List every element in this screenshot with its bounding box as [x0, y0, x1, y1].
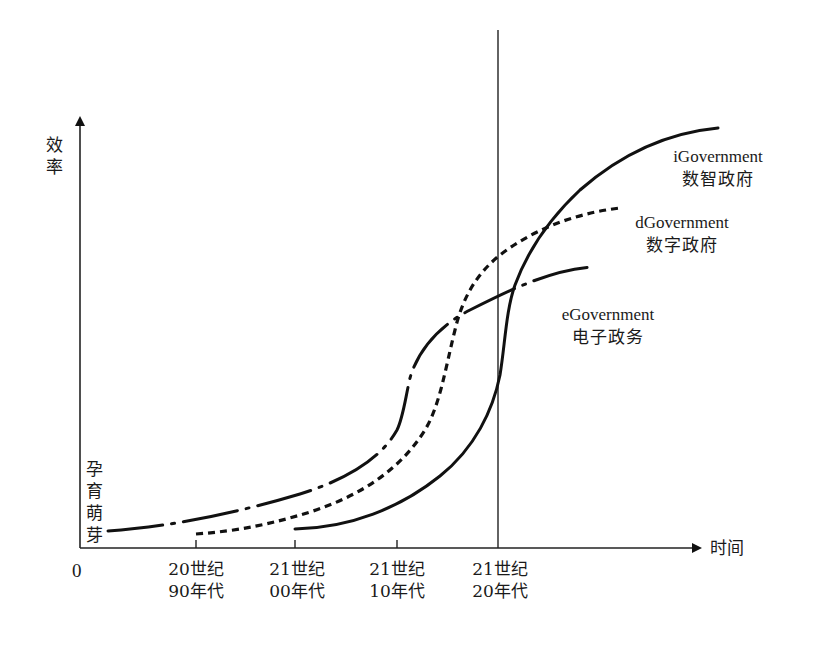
- initial-phase-label: 孕育萌芽: [84, 458, 104, 546]
- y-axis-label: 效率: [44, 134, 64, 178]
- egovernment-curve: [108, 267, 592, 531]
- egovernment-label-en: eGovernment: [562, 304, 655, 326]
- dgovernment-label-en: dGovernment: [635, 212, 728, 234]
- dgovernment-curve: [196, 208, 620, 534]
- dgovernment-label-zh: 数字政府: [635, 234, 728, 256]
- origin-label: 0: [72, 560, 82, 582]
- x-tick-label-2000s: 21世纪 00年代: [269, 558, 325, 602]
- x-axis-ticks: [196, 540, 397, 548]
- egovernment-label-zh: 电子政务: [562, 326, 655, 348]
- igovernment-label-en: iGovernment: [673, 146, 763, 168]
- x-tick-label-1990s: 20世纪 90年代: [168, 558, 224, 602]
- diagram-canvas: [0, 0, 814, 646]
- x-axis-label: 时间: [710, 537, 744, 559]
- egovernment-label: eGovernment 电子政务: [562, 304, 655, 348]
- x-tick-label-2020s: 21世纪 20年代: [472, 558, 528, 602]
- igovernment-label: iGovernment 数智政府: [673, 146, 763, 190]
- x-tick-label-2010s: 21世纪 10年代: [369, 558, 425, 602]
- dgovernment-label: dGovernment 数字政府: [635, 212, 728, 256]
- igovernment-label-zh: 数智政府: [673, 168, 763, 190]
